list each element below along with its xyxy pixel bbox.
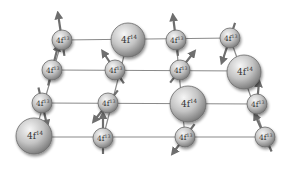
ion-4f13: 4f13 [220, 28, 240, 48]
ion-4f13: 4f13 [32, 93, 52, 113]
ion-4f14: 4f14 [227, 55, 261, 89]
lattice-line [52, 70, 246, 71]
lattice-line [62, 38, 232, 40]
ion-4f13: 4f13 [170, 60, 190, 80]
lattice-svg: 4f134f144f134f134f134f134f134f144f134f13… [0, 0, 288, 170]
ion-4f14: 4f14 [16, 118, 52, 154]
ion-4f13: 4f13 [93, 128, 113, 148]
ion-4f13: 4f13 [52, 30, 72, 50]
ion-4f13: 4f13 [98, 93, 118, 113]
rare-earth-lattice-diagram: 4f134f144f134f134f134f134f134f144f134f13… [0, 0, 288, 170]
ion-4f13: 4f13 [105, 60, 125, 80]
ion-4f13: 4f13 [42, 60, 62, 80]
ion-4f13: 4f13 [247, 94, 267, 114]
ion-4f13: 4f13 [175, 127, 195, 147]
ion-4f13: 4f13 [166, 30, 186, 50]
ion-4f14: 4f14 [111, 23, 145, 57]
ions: 4f134f144f134f134f134f134f134f144f134f13… [16, 23, 275, 154]
lattice-line [42, 103, 258, 104]
ion-4f13: 4f13 [255, 127, 275, 147]
lattice-lines [34, 38, 266, 138]
ion-4f14: 4f14 [170, 86, 206, 122]
